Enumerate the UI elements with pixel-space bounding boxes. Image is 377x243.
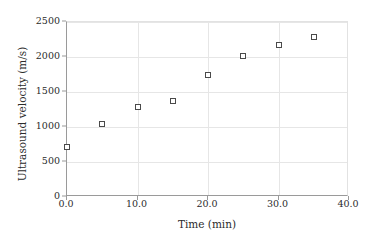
y-tick-label: 1500 bbox=[36, 86, 60, 96]
y-tick-mark bbox=[62, 161, 66, 162]
chart-figure: Ultrasound velocity (m/s) Time (min) 050… bbox=[0, 0, 377, 243]
x-axis-title: Time (min) bbox=[66, 218, 348, 230]
gridline-horizontal bbox=[67, 162, 347, 163]
y-tick-mark bbox=[62, 21, 66, 22]
x-tick-label: 20.0 bbox=[196, 199, 217, 209]
x-tick-label: 10.0 bbox=[126, 199, 147, 209]
gridline-horizontal bbox=[67, 92, 347, 93]
gridline-horizontal bbox=[67, 127, 347, 128]
data-point-marker bbox=[240, 53, 246, 59]
x-tick-label: 0.0 bbox=[58, 199, 73, 209]
data-point-marker bbox=[99, 121, 105, 127]
gridline-vertical bbox=[208, 22, 209, 195]
y-tick-mark bbox=[62, 126, 66, 127]
gridline-horizontal bbox=[67, 57, 347, 58]
x-tick-label: 40.0 bbox=[337, 199, 358, 209]
data-point-marker bbox=[205, 72, 211, 78]
y-tick-label: 2000 bbox=[36, 51, 60, 61]
y-tick-label: 2500 bbox=[36, 16, 60, 26]
data-point-marker bbox=[311, 34, 317, 40]
data-point-marker bbox=[276, 42, 282, 48]
x-tick-label: 30.0 bbox=[267, 199, 288, 209]
y-axis-title: Ultrasound velocity (m/s) bbox=[16, 34, 28, 194]
data-point-marker bbox=[135, 104, 141, 110]
y-tick-mark bbox=[62, 56, 66, 57]
plot-area bbox=[66, 21, 348, 196]
data-point-marker bbox=[64, 144, 70, 150]
gridline-horizontal bbox=[67, 22, 347, 23]
y-tick-label: 500 bbox=[42, 156, 60, 166]
y-tick-label: 1000 bbox=[36, 121, 60, 131]
y-tick-mark bbox=[62, 91, 66, 92]
data-point-marker bbox=[170, 98, 176, 104]
